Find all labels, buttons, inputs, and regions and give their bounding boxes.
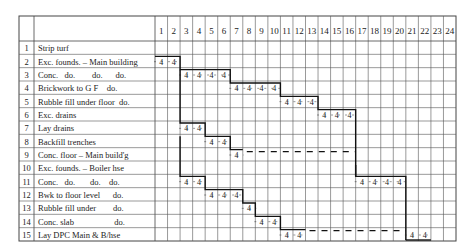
crew-mark: 4 — [410, 231, 414, 240]
activity-label: Bwk to floor level do. — [38, 190, 123, 200]
crew-mark: 4 — [347, 111, 351, 120]
crew-mark: 4 — [260, 84, 264, 93]
crew-mark: 4 — [184, 178, 188, 187]
crew-mark: 4 — [235, 84, 239, 93]
crew-mark: 4 — [322, 111, 326, 120]
crew-mark: 4 — [159, 58, 163, 67]
crew-mark: 4 — [335, 111, 339, 120]
activity-label: Rubble fill under do. — [38, 203, 124, 213]
activity-label: Exc. founds. – Main building — [38, 57, 138, 67]
crew-mark: 4 — [285, 98, 289, 107]
crew-mark: 4 — [297, 231, 301, 240]
week-header: 1 — [159, 26, 164, 36]
crew-mark: 4 — [197, 124, 201, 133]
crew-mark: 4 — [247, 84, 251, 93]
crew-mark: 4 — [209, 138, 213, 147]
crew-mark: 4 — [423, 231, 427, 240]
activity-label: Conc. do. do. do. — [38, 177, 120, 187]
crew-mark: 4 — [360, 178, 364, 187]
week-header: 24 — [445, 26, 455, 36]
week-header: 2 — [172, 26, 177, 36]
bar-chart-programme: 1234567891011121314151617181920212223241… — [0, 0, 471, 250]
week-header: 22 — [420, 26, 429, 36]
crew-mark: 4 — [172, 58, 176, 67]
row-number: 10 — [22, 163, 31, 173]
activity-label: Exc. drains — [38, 110, 76, 120]
row-number: 15 — [22, 230, 31, 240]
activity-label: Conc. do. do. do. — [38, 70, 126, 80]
crew-mark: 4 — [285, 231, 289, 240]
activity-label: Backfill trenches — [38, 137, 96, 147]
crew-mark: 4 — [385, 178, 389, 187]
crew-mark: 4 — [297, 98, 301, 107]
crew-mark: 4 — [222, 191, 226, 200]
row-number: 5 — [24, 97, 28, 107]
week-header: 4 — [197, 26, 202, 36]
crew-mark: 4 — [272, 218, 276, 227]
week-header: 11 — [282, 26, 291, 36]
crew-mark: 4 — [260, 218, 264, 227]
week-header: 14 — [320, 26, 330, 36]
activity-label: Lay DPC Main & B/hse — [38, 230, 120, 240]
week-header: 10 — [270, 26, 280, 36]
week-header: 12 — [295, 26, 304, 36]
crew-mark: 4 — [398, 178, 402, 187]
week-header: 3 — [184, 26, 189, 36]
week-header: 18 — [370, 26, 380, 36]
row-number: 12 — [22, 190, 31, 200]
week-header: 15 — [332, 26, 342, 36]
week-header: 5 — [209, 26, 214, 36]
activity-label: Rubble fill under floor do. — [38, 97, 130, 107]
crew-mark: 4 — [310, 98, 314, 107]
crew-mark: 4 — [222, 71, 226, 80]
week-header: 21 — [408, 26, 417, 36]
week-header: 19 — [383, 26, 393, 36]
crew-mark: 4 — [247, 204, 251, 213]
activity-label: Lay drains — [38, 123, 74, 133]
week-header: 13 — [307, 26, 317, 36]
crew-mark: 4 — [184, 71, 188, 80]
row-number: 2 — [24, 57, 28, 67]
row-number: 13 — [22, 203, 31, 213]
row-number: 4 — [24, 83, 29, 93]
row-number: 6 — [24, 110, 28, 120]
week-header: 6 — [222, 26, 227, 36]
crew-mark: 4 — [222, 138, 226, 147]
activity-label: Strip turf — [38, 43, 69, 53]
row-number: 14 — [22, 217, 31, 227]
crew-mark: 4 — [184, 124, 188, 133]
crew-mark: 4 — [197, 178, 201, 187]
week-header: 16 — [345, 26, 355, 36]
row-number: 8 — [24, 137, 28, 147]
crew-mark: 4 — [235, 191, 239, 200]
crew-mark: 4 — [372, 178, 376, 187]
row-number: 9 — [24, 150, 28, 160]
activity-label: Exc. founds. – Boiler hse — [38, 163, 124, 173]
week-header: 7 — [234, 26, 239, 36]
row-number: 1 — [24, 43, 28, 53]
week-header: 23 — [433, 26, 443, 36]
week-header: 9 — [259, 26, 264, 36]
crew-mark: 4 — [235, 151, 239, 160]
crew-mark: 4 — [197, 71, 201, 80]
activity-label: Conc. slab do. — [38, 217, 125, 227]
row-number: 11 — [22, 177, 30, 187]
crew-mark: 4 — [272, 84, 276, 93]
row-number: 7 — [24, 123, 28, 133]
activity-label: Conc. floor – Main build'g — [38, 150, 129, 160]
week-header: 17 — [357, 26, 367, 36]
week-header: 20 — [395, 26, 405, 36]
row-number: 3 — [24, 70, 28, 80]
crew-mark: 4 — [209, 71, 213, 80]
week-header: 8 — [247, 26, 252, 36]
activity-label: Brickwork to G F do. — [38, 83, 117, 93]
crew-mark: 4 — [209, 191, 213, 200]
